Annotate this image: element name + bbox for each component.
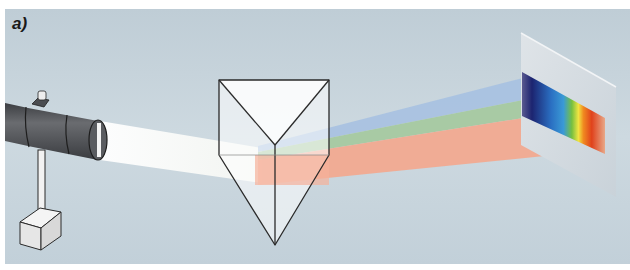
prism-dispersion-diagram [0, 0, 630, 270]
figure-label: a) [12, 14, 27, 34]
